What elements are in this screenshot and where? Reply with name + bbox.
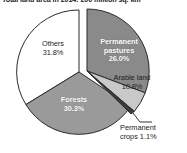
slice-label-others-value: 31.8% — [29, 49, 77, 58]
slice-label-arable-land: Arable land 10.8% — [104, 74, 160, 91]
slice-label-arable-land-value: 10.8% — [104, 83, 160, 92]
slice-label-permanent-crops-name2: crops 1.1% — [120, 133, 182, 142]
pie-chart-figure: Total land area in 2014: 200 million sq.… — [0, 0, 187, 153]
slice-label-permanent-pastures: Permanent pastures 26.0% — [92, 38, 146, 64]
slice-label-others: Others 31.8% — [29, 40, 77, 57]
slice-label-forests-value: 30.3% — [47, 105, 101, 114]
permanent-crops-leader-line — [133, 113, 152, 122]
slice-label-forests: Forests 30.3% — [47, 96, 101, 113]
slice-label-permanent-pastures-value: 26.0% — [92, 55, 146, 64]
slice-label-permanent-crops: Permanent crops 1.1% — [120, 124, 182, 141]
